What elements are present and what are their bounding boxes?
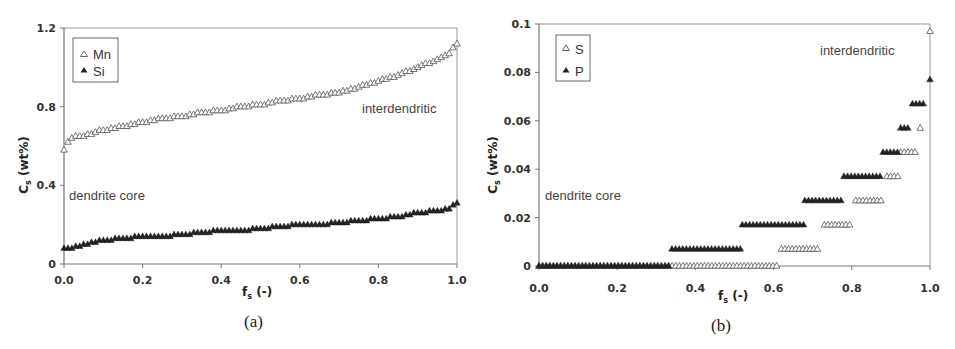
annotation-dendrite-core-b: dendrite core xyxy=(545,188,621,203)
x-tick-label: 0.6 xyxy=(764,282,784,295)
y-tick-label: 0.04 xyxy=(504,163,531,176)
x-tick-label: 0.2 xyxy=(133,274,153,287)
series-p xyxy=(536,76,934,268)
x-tick-label: 0.8 xyxy=(369,274,389,287)
annotation-interdendritic-b: interdendritic xyxy=(820,43,895,58)
caption-b: (b) xyxy=(711,316,731,335)
filled-triangle-marker-icon xyxy=(927,76,934,82)
y-tick-label: 0.08 xyxy=(504,66,531,79)
open-triangle-marker-icon xyxy=(61,146,68,152)
svg-text:Cs (wt%): Cs (wt%) xyxy=(486,136,502,194)
annotation-interdendritic-a: interdendritic xyxy=(362,101,437,116)
y-tick-label: 0.1 xyxy=(512,18,532,31)
x-tick-label: 1.0 xyxy=(447,274,467,287)
filled-triangle-marker-icon xyxy=(454,199,461,205)
y-tick-label: 0 xyxy=(523,260,531,273)
open-triangle-marker-icon xyxy=(454,40,461,46)
legend-label-p: P xyxy=(575,64,584,79)
figure-canvas: 0.00.20.40.60.81.000.40.81.2 Mn Si dendr… xyxy=(0,0,955,349)
x-tick-label: 0.4 xyxy=(211,274,231,287)
legend-label-s: S xyxy=(575,42,584,57)
chart-panel-a: 0.00.20.40.60.81.000.40.81.2 Mn Si dendr… xyxy=(17,22,467,331)
x-tick-label: 1.0 xyxy=(920,282,940,295)
y-axis-label-b: Cs (wt%) xyxy=(486,136,502,194)
x-tick-label: 0.0 xyxy=(529,282,549,295)
x-axis-label-b: fs (-) xyxy=(718,289,748,305)
caption-a: (a) xyxy=(244,312,263,331)
legend-label-si: Si xyxy=(93,64,105,79)
legend-b: S P xyxy=(556,35,590,81)
legend-label-mn: Mn xyxy=(93,47,111,62)
series-s xyxy=(536,28,934,269)
x-tick-label: 0.6 xyxy=(290,274,310,287)
x-axis-label-a: fs (-) xyxy=(242,285,272,301)
series-mn xyxy=(61,40,461,152)
x-tick-label: 0.2 xyxy=(607,282,627,295)
y-tick-label: 0.4 xyxy=(37,179,57,192)
y-tick-label: 1.2 xyxy=(37,22,57,35)
open-triangle-marker-icon xyxy=(927,28,934,34)
open-triangle-marker-icon xyxy=(446,50,453,56)
legend-a: Mn Si xyxy=(73,38,118,82)
x-tick-label: 0.0 xyxy=(54,274,74,287)
y-tick-label: 0 xyxy=(48,258,56,271)
y-tick-label: 0.02 xyxy=(504,212,531,225)
x-tick-label: 0.4 xyxy=(686,282,706,295)
y-tick-label: 0.06 xyxy=(504,115,531,128)
y-axis-label-a: Cs (wt%) xyxy=(17,136,33,194)
svg-text:Cs (wt%): Cs (wt%) xyxy=(17,136,33,194)
x-tick-label: 0.8 xyxy=(842,282,862,295)
chart-panel-b: 0.00.20.40.60.81.000.020.040.060.080.1 S… xyxy=(486,18,940,335)
series-si xyxy=(61,199,461,250)
open-triangle-marker-icon xyxy=(917,124,924,130)
annotation-dendrite-core-a: dendrite core xyxy=(69,188,145,203)
y-tick-label: 0.8 xyxy=(37,101,57,114)
